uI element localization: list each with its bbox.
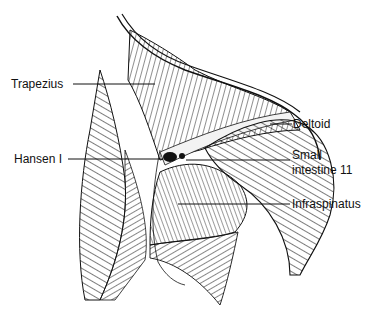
label-small-intestine-line2: intestine 11 [292,163,353,177]
hansen-point-marker [163,152,177,162]
teres-muscle [150,232,238,305]
label-small-intestine-line1: Small [292,148,322,162]
label-hansen-i: Hansen I [14,152,62,166]
small-intestine-11-marker [179,153,185,159]
label-deltoid: Deltoid [293,117,330,131]
label-trapezius: Trapezius [11,77,63,91]
label-infraspinatus: Infraspinatus [292,197,361,211]
shoulder-anatomy-diagram: Trapezius Hansen I Deltoid Small intesti… [0,0,379,326]
